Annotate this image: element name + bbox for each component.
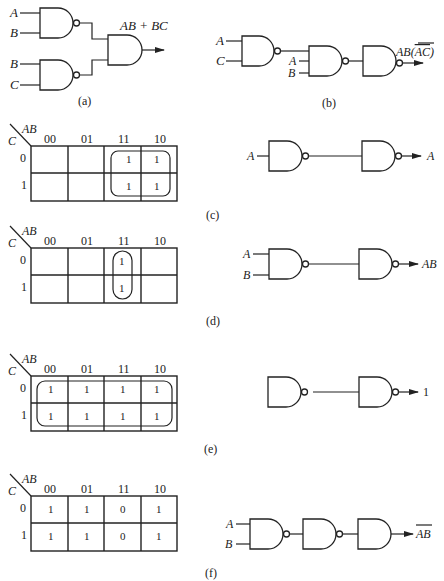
kmap-row-header: 0 [20,501,26,515]
inversion-bubble [396,153,402,159]
kmap-col-header: 10 [154,132,166,146]
inversion-bubble [303,153,309,159]
and-gate [108,35,142,65]
panel-caption: (e) [204,442,217,456]
kmap-cell: 1 [154,153,160,165]
nand-gate [303,519,336,549]
kmap-col-var: AB [21,224,37,238]
kmap-col-header: 11 [118,234,130,248]
nand-gate [359,249,392,279]
input-label: C [216,53,225,68]
kmap-cell: 1 [126,153,132,165]
nand-gate [362,141,395,171]
inversion-bubble [337,531,343,537]
nand-gate [359,377,392,407]
nand-kmap-figure: A B B C AB + BC (a) A C A B [0,0,444,581]
panel-f: AB C 00 01 11 10 0 1 1 1 0 1 1 1 0 1 A B… [8,472,432,580]
output-label: 1 [423,385,429,399]
kmap-row-var: C [8,236,17,250]
input-label: A [246,149,255,163]
kmap-col-header: 00 [44,362,56,376]
wire [80,60,108,75]
nand-gate [363,46,396,76]
nand-gate [40,60,73,90]
kmap-row-var: C [8,134,17,148]
input-label: A [9,5,18,20]
kmap-col-header: 11 [118,362,130,376]
kmap-col-var: AB [21,352,37,366]
kmap-row-var: C [8,484,17,498]
kmap-row-header: 1 [21,528,27,542]
kmap-col-header: 11 [118,132,130,146]
nand-gate [269,249,302,279]
kmap-cell: 1 [154,383,160,395]
kmap-cell: 1 [48,383,54,395]
input-label: A [225,517,234,531]
input-label: B [10,25,18,40]
kmap-row-header: 1 [21,280,27,294]
panel-caption: (a) [78,94,91,108]
kmap-cell: 0 [120,530,126,542]
input-label: B [10,56,18,71]
input-label: C [10,77,19,92]
kmap-cell: 1 [154,410,160,422]
kmap-cell: 1 [84,383,90,395]
kmap-col-header: 11 [118,482,130,496]
inversion-bubble [74,20,80,26]
kmap-row-var: C [8,364,17,378]
kmap-col-var: AB [21,472,37,486]
kmap-cell: 1 [48,503,54,515]
kmap-row-header: 1 [21,178,27,192]
kmap-col-header: 10 [154,482,166,496]
kmap-cell: 1 [120,383,126,395]
kmap-col-header: 01 [81,482,93,496]
output-label: AB(AC) [395,45,434,59]
kmap-col-header: 01 [81,362,93,376]
nand-gate [269,141,302,171]
kmap-col-header: 00 [44,234,56,248]
kmap-cell: 1 [84,530,90,542]
output-label-overbar: AC [414,45,431,59]
panel-caption: (b) [322,96,336,110]
nand-gate [40,8,73,38]
panel-d: AB C 00 01 11 10 0 1 1 1 A B AB (d) [8,224,437,328]
kmap-cell: 1 [48,410,54,422]
panel-e: AB C 00 01 11 10 0 1 1 1 1 1 1 1 1 1 1 (… [8,352,429,456]
panel-caption: (c) [206,208,219,222]
panel-caption: (f) [205,566,217,580]
input-label: A [242,247,251,261]
inversion-bubble [284,531,290,537]
output-label: A [426,149,435,163]
kmap-cell: 1 [126,180,132,192]
nand-gate [309,46,342,76]
and-gate [358,519,391,549]
inversion-bubble [343,58,349,64]
input-label: B [225,537,233,551]
nand-gate [250,519,283,549]
kmap-row-header: 1 [21,408,27,422]
input-label: B [288,66,296,80]
kmap-cell: 1 [119,282,125,294]
kmap-cell: 1 [48,530,54,542]
output-label: AB [415,527,431,541]
inversion-bubble [302,389,308,395]
panel-a: A B B C AB + BC (a) [9,5,168,108]
output-label: AB + BC [119,18,168,33]
nand-gate [268,377,301,407]
input-label: A [215,33,224,48]
panel-c: AB C 00 01 11 10 0 1 1 1 1 1 A A (c) [8,122,435,222]
inversion-bubble [397,60,403,66]
wire [80,23,108,39]
nand-gate [242,36,274,66]
kmap-col-header: 00 [44,482,56,496]
kmap-col-header: 10 [154,234,166,248]
inversion-bubble [303,261,309,267]
kmap-cell: 1 [156,503,162,515]
kmap-cell: 1 [119,255,125,267]
kmap-row-header: 0 [20,253,26,267]
output-label: AB [421,257,437,271]
kmap-col-header: 10 [154,362,166,376]
input-label: B [243,268,251,282]
inversion-bubble [74,72,80,78]
kmap-col-header: 01 [81,132,93,146]
